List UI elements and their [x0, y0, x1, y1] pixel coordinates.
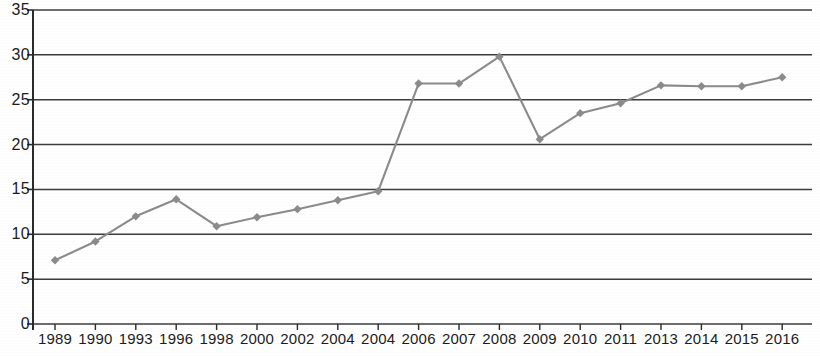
y-tick-label-wrap-20: 20 — [0, 137, 30, 153]
y-tick-label-wrap-35: 35 — [0, 2, 30, 18]
y-tick-label-wrap-15: 15 — [0, 181, 30, 197]
x-axis-label-2013-15: 2013 — [638, 330, 684, 347]
y-axis-label-30: 30 — [2, 47, 30, 63]
y-axis-label-5: 5 — [2, 271, 30, 287]
data-point-2004-7 — [334, 196, 342, 204]
x-axis-label-2008-11: 2008 — [476, 330, 522, 347]
y-axis-label-10: 10 — [2, 226, 30, 242]
data-point-2002-6 — [293, 205, 301, 213]
x-axis-label-2014-16: 2014 — [678, 330, 724, 347]
y-axis-label-20: 20 — [2, 137, 30, 153]
data-point-2015-17 — [738, 82, 746, 90]
data-point-2016-18 — [778, 73, 786, 81]
data-point-2006-9 — [414, 79, 422, 87]
x-axis-label-1993-2: 1993 — [113, 330, 159, 347]
x-axis-label-1996-3: 1996 — [153, 330, 199, 347]
y-tick-label-wrap-30: 30 — [0, 47, 30, 63]
x-axis-label-2007-10: 2007 — [436, 330, 482, 347]
y-axis-label-15: 15 — [2, 181, 30, 197]
x-axis-label-2010-13: 2010 — [557, 330, 603, 347]
x-axis-label-1990-1: 1990 — [72, 330, 118, 347]
y-tick-label-wrap-25: 25 — [0, 92, 30, 108]
data-point-2000-5 — [253, 213, 261, 221]
data-point-1989-0 — [51, 256, 59, 264]
data-point-markers — [51, 52, 787, 264]
chart-plot-area — [0, 0, 820, 356]
data-point-2013-15 — [657, 81, 665, 89]
line-chart: 05101520253035 1989199019931996199820002… — [0, 0, 820, 356]
x-axis-label-2004-7: 2004 — [315, 330, 361, 347]
x-axis-label-1998-4: 1998 — [194, 330, 240, 347]
gridlines — [33, 10, 812, 324]
y-tick-label-wrap-10: 10 — [0, 226, 30, 242]
x-axis-label-2011-14: 2011 — [598, 330, 644, 347]
y-tick-label-wrap-5: 5 — [0, 271, 30, 287]
x-axis-label-2016-18: 2016 — [759, 330, 805, 347]
x-axis-label-2009-12: 2009 — [517, 330, 563, 347]
x-axis-label-2006-9: 2006 — [396, 330, 442, 347]
data-point-2004-8 — [374, 187, 382, 195]
x-axis-label-2000-5: 2000 — [234, 330, 280, 347]
x-axis-label-2002-6: 2002 — [274, 330, 320, 347]
x-axis-label-2004-8: 2004 — [355, 330, 401, 347]
data-point-2014-16 — [697, 82, 705, 90]
y-axis-label-0: 0 — [2, 316, 30, 332]
y-axis-label-25: 25 — [2, 92, 30, 108]
x-axis-label-2015-17: 2015 — [719, 330, 765, 347]
x-axis-label-1989-0: 1989 — [32, 330, 78, 347]
y-axis-label-35: 35 — [2, 2, 30, 18]
y-tick-label-wrap-0: 0 — [0, 316, 30, 332]
